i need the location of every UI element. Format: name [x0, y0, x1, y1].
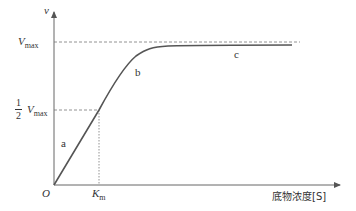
vmax-label: Vmax	[18, 35, 39, 50]
y-axis-label: v	[44, 4, 49, 16]
half-fraction: 1 2	[15, 98, 22, 121]
km-label: Km	[92, 187, 106, 202]
region-b-label: b	[135, 66, 141, 78]
velocity-curve	[54, 45, 292, 185]
michaelis-menten-plot	[0, 0, 356, 211]
region-a-label: a	[61, 137, 66, 149]
region-c-label: c	[234, 48, 239, 60]
origin-label: O	[42, 187, 50, 199]
half-vmax-label: Vmax	[27, 103, 48, 118]
x-axis-label: 底物浓度[S]	[272, 188, 326, 203]
